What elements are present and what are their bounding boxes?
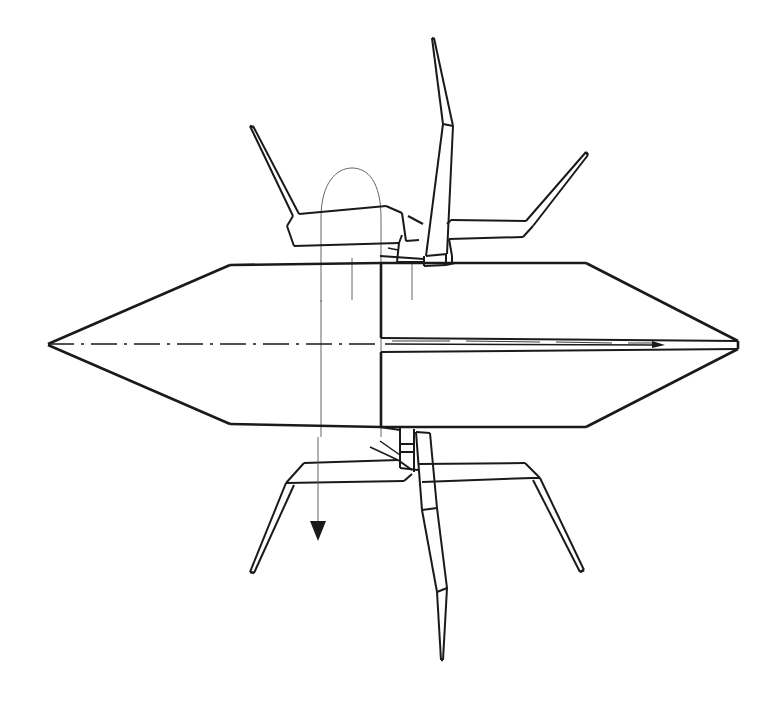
- line-drawing-canvas: [0, 0, 780, 727]
- canvas-background: [0, 0, 780, 727]
- figure-root: reproduced from the original page header: [0, 0, 780, 727]
